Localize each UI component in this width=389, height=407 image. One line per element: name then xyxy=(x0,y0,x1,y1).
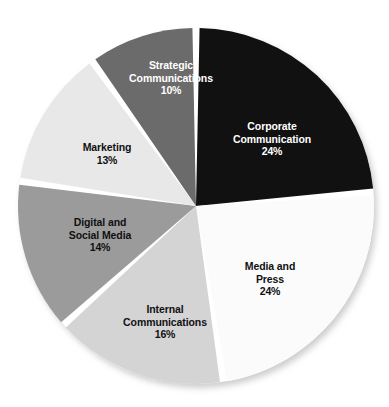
pie-slice-corporate-communication[interactable] xyxy=(196,28,373,206)
pie-chart-svg xyxy=(0,0,389,407)
pie-slice-media-and-press[interactable] xyxy=(196,196,374,382)
pie-chart-figure: Corporate Communication 24% Media and Pr… xyxy=(0,0,389,407)
